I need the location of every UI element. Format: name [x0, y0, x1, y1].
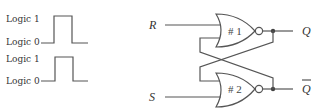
input-s-label: S — [149, 90, 155, 104]
logic0-label: Logic 0 — [6, 76, 40, 86]
pulse-waveform — [41, 16, 88, 43]
inverter-bubble-icon — [255, 27, 262, 34]
sr-latch-diagram: Logic 1 Logic 0 Logic 1 Logic 0 R S # 1 … — [0, 0, 321, 110]
output-q-label: Q — [302, 24, 311, 38]
waveform-2: Logic 1 Logic 0 — [6, 54, 88, 86]
input-r-label: R — [148, 18, 157, 32]
logic1-label: Logic 1 — [6, 54, 40, 64]
logic0-label: Logic 0 — [6, 37, 40, 47]
inverter-bubble-icon — [255, 85, 262, 92]
output-qbar-label: Q — [302, 82, 311, 96]
nor-gate-2: # 2 — [216, 73, 263, 107]
gate1-label: # 1 — [228, 25, 242, 37]
logic1-label: Logic 1 — [6, 14, 40, 24]
pulse-waveform — [41, 57, 88, 81]
waveform-1: Logic 1 Logic 0 — [6, 14, 88, 47]
gate2-label: # 2 — [228, 83, 242, 95]
nor-gate-1: # 1 — [216, 14, 263, 47]
